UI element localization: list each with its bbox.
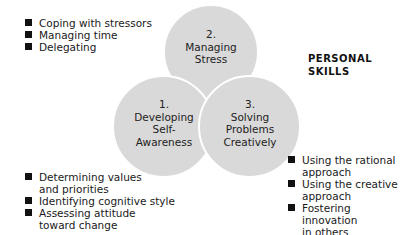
list-item: Identifying cognitive style <box>25 195 175 207</box>
circle-text: Self- <box>124 123 204 136</box>
list-item: Managing time <box>25 29 152 41</box>
circle-text: Solving <box>210 111 290 124</box>
list-item-text: approach <box>302 190 409 202</box>
list-item: Delegating <box>25 41 152 53</box>
square-bullet-icon <box>25 173 32 180</box>
list-item: Determining valuesand priorities <box>25 171 175 195</box>
square-bullet-icon <box>25 19 32 26</box>
circle-number: 1. <box>124 98 204 111</box>
square-bullet-icon <box>288 204 295 211</box>
list-item-text: in others <box>302 226 409 235</box>
square-bullet-icon <box>288 180 295 187</box>
list-item-text: toward change <box>39 219 175 231</box>
list-item-text: approach <box>302 166 409 178</box>
square-bullet-icon <box>25 43 32 50</box>
circle-label-managing-stress: 2. Managing Stress <box>173 28 249 66</box>
awareness-skills-list: Determining valuesand priorities Identif… <box>25 171 175 231</box>
square-bullet-icon <box>25 197 32 204</box>
square-bullet-icon <box>25 209 32 216</box>
circle-text: Awareness <box>124 136 204 149</box>
list-item-text: Identifying cognitive style <box>39 195 175 207</box>
list-item-text: Coping with stressors <box>39 17 152 29</box>
list-item-text: Delegating <box>39 41 96 53</box>
circle-text: Creatively <box>210 136 290 149</box>
list-item-text: Using the creative <box>302 178 409 190</box>
list-item: Coping with stressors <box>25 17 152 29</box>
square-bullet-icon <box>25 31 32 38</box>
list-item: Using the creativeapproach <box>288 178 409 202</box>
circle-text: Developing <box>124 111 204 124</box>
circle-number: 3. <box>210 98 290 111</box>
title-line: PERSONAL <box>308 53 372 66</box>
square-bullet-icon <box>288 156 295 163</box>
circle-text: Managing <box>173 41 249 54</box>
list-item-text: Determining values <box>39 171 175 183</box>
personal-skills-title: PERSONAL SKILLS <box>308 53 372 78</box>
circle-text: Stress <box>173 53 249 66</box>
list-item-text: Using the rational <box>302 154 409 166</box>
list-item-text: Fostering innovation <box>302 202 409 226</box>
circle-text: Problems <box>210 123 290 136</box>
list-item: Using the rationalapproach <box>288 154 409 178</box>
list-item: Fostering innovationin others <box>288 202 409 235</box>
list-item-text: Assessing attitude <box>39 207 175 219</box>
circle-number: 2. <box>173 28 249 41</box>
list-item-text: Managing time <box>39 29 118 41</box>
stress-skills-list: Coping with stressors Managing time Dele… <box>25 17 152 53</box>
circle-label-self-awareness: 1. Developing Self- Awareness <box>124 98 204 148</box>
circle-label-solving-problems: 3. Solving Problems Creatively <box>210 98 290 148</box>
list-item: Assessing attitudetoward change <box>25 207 175 231</box>
problem-solving-skills-list: Using the rationalapproach Using the cre… <box>288 154 409 235</box>
list-item-text: and priorities <box>39 183 175 195</box>
title-line: SKILLS <box>308 66 372 79</box>
